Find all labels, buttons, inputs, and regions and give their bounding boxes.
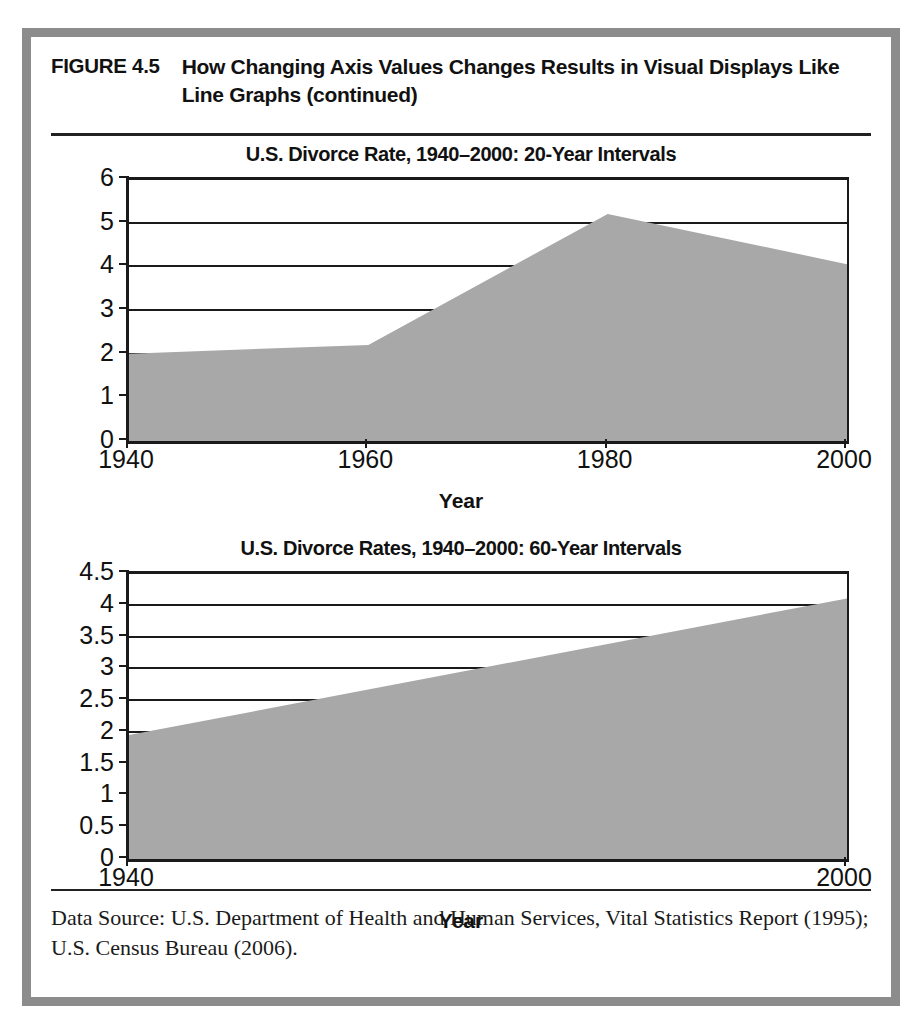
y-axis-tick-label: 4.5 [79,557,114,586]
y-axis-tick-mark [119,729,129,731]
chart-title: U.S. Divorce Rates, 1940–2000: 60-Year I… [31,537,891,560]
y-axis-tick-label: 1 [100,381,114,410]
x-axis-tick-label: 1940 [98,445,154,474]
y-axis-tick-label: 3 [100,652,114,681]
y-axis-tick-mark [119,307,129,309]
x-axis-tick-label: 1940 [98,863,154,892]
y-axis-tick-mark [119,792,129,794]
y-axis-tick-label: 2 [100,715,114,744]
y-axis-tick-label: 2 [100,337,114,366]
chart-title: U.S. Divorce Rate, 1940–2000: 20-Year In… [31,143,891,166]
y-axis-tick-mark [119,761,129,763]
y-axis-tick-label: 1.5 [79,747,114,776]
y-axis-tick-mark [119,665,129,667]
y-axis-tick-label: 4 [100,250,114,279]
area-series [129,573,847,859]
plot-area [126,571,849,862]
plot-inner [129,573,847,859]
y-axis-tick-label: 3.5 [79,620,114,649]
y-axis-tick-mark [119,394,129,396]
x-axis-label: Year [31,489,891,513]
figure-header: FIGURE 4.5 How Changing Axis Values Chan… [51,53,871,109]
y-axis-tick-label: 6 [100,163,114,192]
footer-divider [51,889,871,891]
x-axis-tick-label: 2000 [816,445,872,474]
y-axis-tick-label: 4 [100,588,114,617]
y-axis-tick-mark [119,697,129,699]
figure-frame: FIGURE 4.5 How Changing Axis Values Chan… [22,28,900,1006]
y-axis-tick-mark [119,220,129,222]
y-axis-tick-mark [119,351,129,353]
figure-content: FIGURE 4.5 How Changing Axis Values Chan… [31,37,891,997]
y-axis-tick-label: 5 [100,206,114,235]
y-axis-tick-label: 0.5 [79,811,114,840]
area-series [129,179,847,441]
y-axis-tick-mark [119,634,129,636]
y-axis-tick-label: 2.5 [79,684,114,713]
y-axis-tick-mark [119,602,129,604]
x-axis-tick-label: 1960 [338,445,394,474]
y-axis-tick-label: 3 [100,294,114,323]
y-axis-tick-label: 1 [100,779,114,808]
plot-area [126,177,849,444]
source-note: Data Source: U.S. Department of Health a… [51,903,881,963]
plot-inner [129,179,847,441]
y-axis-tick-mark [119,176,129,178]
header-divider [51,133,871,136]
x-axis-tick-label: 1980 [577,445,633,474]
figure-title: How Changing Axis Values Changes Results… [182,53,871,109]
x-axis-tick-label: 2000 [816,863,872,892]
figure-label: FIGURE 4.5 [51,53,160,78]
y-axis-tick-mark [119,824,129,826]
y-axis-tick-mark [119,263,129,265]
y-axis-tick-mark [119,570,129,572]
